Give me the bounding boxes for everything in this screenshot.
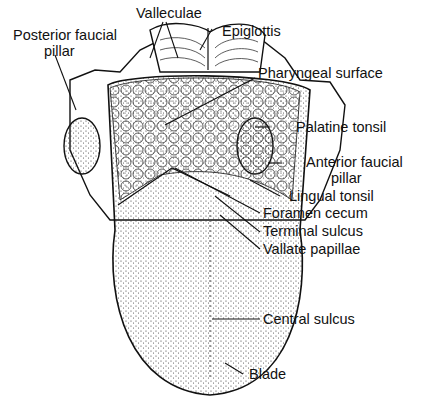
label-vallate-papillae: Vallate papillae	[263, 242, 360, 257]
label-central-sulcus: Central sulcus	[263, 312, 355, 327]
label-epiglottis: Epiglottis	[222, 24, 281, 39]
label-blade: Blade	[249, 367, 286, 382]
label-anterior-faucial-pillar-line2: pillar	[331, 171, 362, 186]
label-terminal-sulcus: Terminal sulcus	[263, 224, 363, 239]
label-anterior-faucial-pillar-line1: Anterior faucial	[306, 155, 403, 170]
label-posterior-faucial-pillar-line2: pillar	[44, 44, 75, 59]
label-palatine-tonsil: Palatine tonsil	[296, 120, 386, 135]
label-foramen-cecum: Foramen cecum	[263, 206, 368, 221]
left-palatine-tonsil	[64, 118, 100, 174]
label-valleculae: Valleculae	[136, 6, 202, 21]
label-pharyngeal-surface: Pharyngeal surface	[258, 66, 383, 81]
label-lingual-tonsil: Lingual tonsil	[289, 189, 374, 204]
label-posterior-faucial-pillar-line1: Posterior faucial	[13, 28, 117, 43]
